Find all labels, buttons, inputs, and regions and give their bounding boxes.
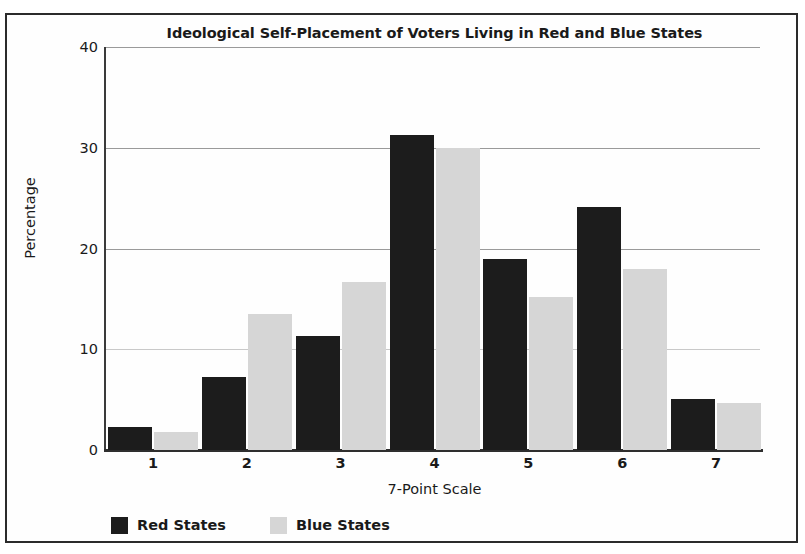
- chart-legend: Red StatesBlue States: [111, 514, 434, 536]
- bar-red-states-4: [390, 135, 434, 450]
- y-tick-label-20: 20: [58, 241, 98, 257]
- legend-swatch-icon-blue: [270, 517, 287, 534]
- chart-figure: Ideological Self-Placement of Voters Liv…: [5, 13, 798, 543]
- legend-item-red-states: Red States: [111, 517, 226, 534]
- bar-blue-states-3: [342, 282, 386, 450]
- bar-red-states-1: [108, 427, 152, 450]
- y-tick-label-40: 40: [58, 39, 98, 55]
- y-axis-ticks: 010203040: [46, 15, 98, 545]
- legend-item-blue-states: Blue States: [270, 517, 390, 534]
- x-tick-label-4: 4: [415, 455, 455, 471]
- bar-blue-states-4: [436, 148, 480, 450]
- bar-blue-states-6: [623, 269, 667, 450]
- x-tick-label-3: 3: [321, 455, 361, 471]
- x-tick-label-7: 7: [696, 455, 736, 471]
- bar-red-states-2: [202, 377, 246, 450]
- bar-red-states-6: [577, 207, 621, 450]
- legend-label: Blue States: [296, 517, 390, 533]
- legend-label: Red States: [137, 517, 226, 533]
- bar-red-states-5: [483, 259, 527, 450]
- legend-swatch-icon-red: [111, 517, 128, 534]
- bar-red-states-3: [296, 336, 340, 450]
- bar-blue-states-2: [248, 314, 292, 450]
- x-axis-ticks: 1234567: [106, 455, 763, 479]
- y-tick-label-10: 10: [58, 341, 98, 357]
- bar-blue-states-1: [154, 432, 198, 450]
- x-tick-label-2: 2: [227, 455, 267, 471]
- chart-title: Ideological Self-Placement of Voters Liv…: [102, 25, 767, 41]
- bar-series-container: [106, 47, 763, 450]
- bar-blue-states-7: [717, 403, 761, 450]
- y-tick-label-30: 30: [58, 140, 98, 156]
- y-tick-label-0: 0: [58, 442, 98, 458]
- x-tick-label-1: 1: [133, 455, 173, 471]
- x-axis-label: 7-Point Scale: [106, 481, 763, 497]
- y-axis-label: Percentage: [22, 158, 38, 278]
- x-tick-label-5: 5: [508, 455, 548, 471]
- bar-blue-states-5: [529, 297, 573, 450]
- x-tick-label-6: 6: [602, 455, 642, 471]
- bar-red-states-7: [671, 399, 715, 450]
